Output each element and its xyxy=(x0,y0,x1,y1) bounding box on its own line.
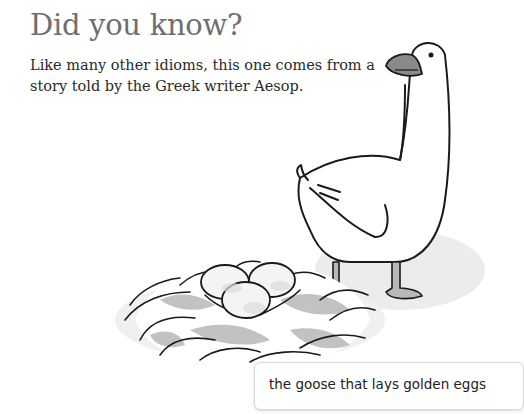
idiom-caption: the goose that lays golden eggs xyxy=(269,376,486,392)
idiom-caption-box: the goose that lays golden eggs xyxy=(254,362,524,410)
goose-icon xyxy=(297,43,449,262)
